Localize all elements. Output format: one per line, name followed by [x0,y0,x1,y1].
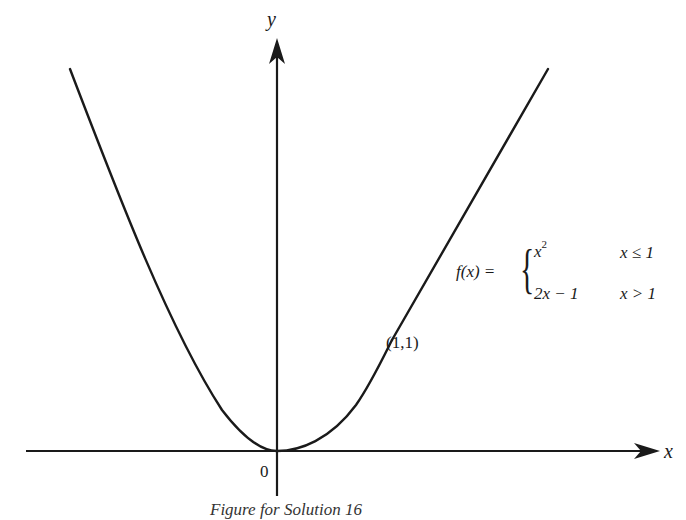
figure-caption: Figure for Solution 16 [210,500,362,520]
origin-label: 0 [260,462,269,482]
parabola-branch [70,69,392,451]
x-axis [26,443,660,459]
y-axis [269,38,285,496]
case1-condition: x ≤ 1 [620,243,654,263]
formula-lhs: f(x) = [456,262,495,282]
x-axis-label: x [664,440,673,463]
y-axis-label: y [267,8,276,31]
piecewise-formula: f(x) = { x2 x ≤ 1 2x − 1 x > 1 [456,240,686,310]
case2-expression: 2x − 1 [534,284,579,304]
brace-icon: { [520,242,534,296]
case1-exponent: 2 [542,238,548,250]
case1-base: x [534,242,542,261]
case2-condition: x > 1 [620,284,656,304]
case1-expression: x2 [534,240,547,262]
point-annotation: (1,1) [386,333,419,353]
